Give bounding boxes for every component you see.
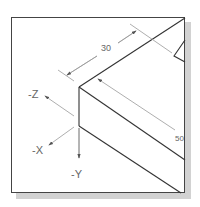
dimension-50-label: 50 [175,134,184,143]
dimension-30 [58,24,172,81]
isometric-drawing: 30 50 -Z -X -Y [0,0,200,207]
axis-label-neg-z: -Z [28,88,39,100]
axis-triad [45,96,79,158]
axis-label-neg-y: -Y [71,168,83,180]
dimension-50 [98,79,175,130]
axis-label-neg-x: -X [32,144,44,156]
dimension-30-label: 30 [101,43,111,53]
object-edges [79,18,185,193]
